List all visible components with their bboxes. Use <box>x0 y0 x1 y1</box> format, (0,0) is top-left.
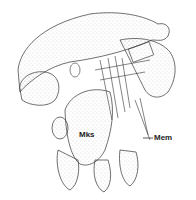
left-lobe <box>20 72 59 106</box>
label-mem: Mem <box>154 133 172 142</box>
label-mks: Mks <box>79 130 95 139</box>
lower-right <box>119 150 138 186</box>
lower-mid <box>94 160 111 192</box>
left-oval <box>52 117 68 139</box>
anatomical-illustration <box>0 0 196 200</box>
right-structure <box>120 39 175 98</box>
mks-structure <box>65 90 112 165</box>
